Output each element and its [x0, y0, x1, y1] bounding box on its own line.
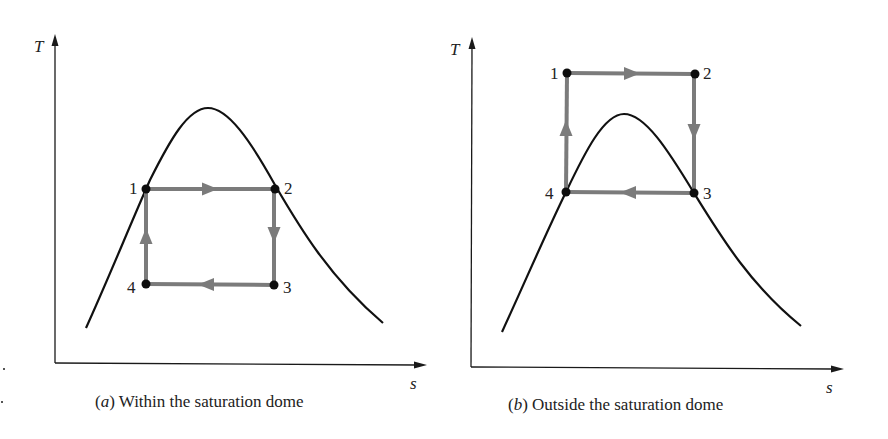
state-point-1-b: [563, 69, 572, 78]
y-axis-label-a: T: [34, 37, 45, 56]
y-axis-arrow-icon: [469, 37, 476, 49]
state-label-2-a: 2: [284, 179, 293, 198]
figure-canvas: T s 1 2 3 4 T s: [0, 0, 888, 439]
arrow-down-icon: [268, 227, 281, 243]
x-axis-label-a: s: [410, 374, 417, 393]
caption-text-a: Within the saturation dome: [119, 392, 304, 411]
caption-a: (a) Within the saturation dome: [95, 392, 304, 412]
x-axis-arrow-icon: [414, 362, 427, 369]
state-label-2-b: 2: [703, 64, 712, 83]
state-label-1-b: 1: [550, 64, 559, 83]
state-point-4-b: [562, 188, 571, 197]
arrow-left-icon: [198, 278, 214, 291]
x-axis-a: [55, 363, 416, 365]
state-point-2-b: [691, 70, 700, 79]
panel-a: T s 1 2 3 4: [34, 34, 427, 393]
scan-artifact: [3, 368, 5, 370]
state-point-2-a: [271, 185, 280, 194]
arrow-up-icon: [140, 228, 153, 244]
state-label-4-a: 4: [127, 278, 136, 297]
y-axis-b: [471, 47, 472, 367]
state-point-4-a: [142, 280, 151, 289]
state-point-3-a: [270, 281, 279, 290]
state-label-3-b: 3: [703, 184, 712, 203]
arrow-up-icon: [560, 120, 573, 136]
arrow-down-icon: [688, 124, 701, 140]
x-axis-arrow-icon: [831, 366, 844, 373]
x-axis-b: [471, 367, 833, 369]
caption-text-b: Outside the saturation dome: [532, 395, 723, 414]
arrow-right-icon: [624, 67, 640, 80]
caption-b: (b) Outside the saturation dome: [508, 395, 723, 415]
caption-letter-a: a: [101, 392, 110, 411]
saturation-dome-b: [502, 114, 801, 332]
state-point-1-a: [142, 185, 151, 194]
arrow-left-icon: [620, 186, 636, 199]
scan-artifact: [1, 401, 3, 403]
state-label-1-a: 1: [129, 179, 138, 198]
y-axis-label-b: T: [450, 40, 461, 59]
x-axis-label-b: s: [826, 378, 833, 397]
state-label-3-a: 3: [283, 278, 292, 297]
panel-b: T s 1 2 3 4: [450, 37, 844, 397]
caption-letter-b: b: [514, 395, 523, 414]
state-point-3-b: [690, 189, 699, 198]
y-axis-arrow-icon: [52, 34, 59, 46]
arrow-right-icon: [202, 183, 218, 196]
state-label-4-b: 4: [545, 184, 554, 203]
